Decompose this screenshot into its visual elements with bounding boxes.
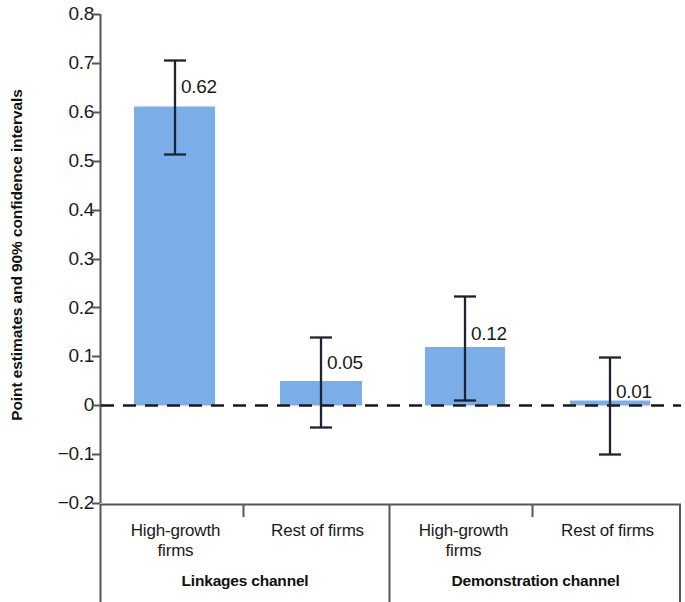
x-category-label-linkages-rest: Rest of firms [250, 521, 385, 541]
group-label-demonstration: Demonstration channel [391, 572, 680, 590]
x-category-label-linkages-high-growth: High-growth firms [108, 521, 243, 561]
bar-value-label: 0.12 [471, 323, 507, 345]
category-line-1: Rest of firms [250, 521, 385, 541]
category-line-1: Rest of firms [540, 521, 675, 541]
category-line-1: High-growth [108, 521, 243, 541]
category-line-2: firms [396, 541, 531, 561]
plot-area [0, 0, 685, 602]
bar-chart: Point estimates and 90% confidence inter… [0, 0, 685, 602]
y-axis-ticks [92, 15, 100, 504]
x-category-label-demonstration-high-growth: High-growth firms [396, 521, 531, 561]
category-line-2: firms [108, 541, 243, 561]
group-label-linkages: Linkages channel [101, 572, 389, 590]
x-category-label-demonstration-rest: Rest of firms [540, 521, 675, 541]
bar-value-label: 0.62 [181, 76, 217, 98]
bar-value-label: 0.05 [327, 352, 363, 374]
category-line-1: High-growth [396, 521, 531, 541]
bar-value-label: 0.01 [616, 381, 652, 403]
